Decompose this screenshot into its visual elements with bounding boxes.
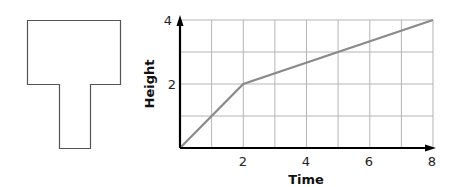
grid — [180, 20, 433, 148]
x-axis-arrow-icon — [425, 145, 436, 152]
y-axis-label: Height — [142, 60, 157, 109]
y-tick-2: 2 — [168, 77, 176, 92]
x-tick-2: 2 — [239, 154, 247, 169]
x-tick-8: 8 — [428, 154, 436, 169]
y-tick-4: 4 — [164, 13, 172, 28]
figure: 4 2 2 4 6 8 Time Height — [0, 0, 455, 187]
x-tick-4: 4 — [302, 154, 310, 169]
t-shape-container — [28, 21, 121, 149]
x-tick-6: 6 — [365, 154, 373, 169]
x-axis-label: Time — [288, 172, 324, 187]
